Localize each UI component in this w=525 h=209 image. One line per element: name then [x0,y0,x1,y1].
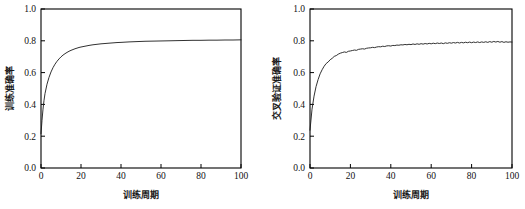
svg-text:0: 0 [308,171,313,181]
svg-text:100: 100 [505,171,520,181]
x-axis-title-training-epoch: 训练周期 [41,188,241,201]
svg-text:0.8: 0.8 [293,36,305,46]
svg-text:40: 40 [116,171,126,181]
svg-text:20: 20 [346,171,356,181]
svg-text:0.0: 0.0 [293,163,305,173]
cross-validation-accuracy-plot: 0204060801000.00.20.40.60.81.0 [262,0,525,209]
y-axis-title-cross-validation-accuracy: 交叉验证准确率 [270,57,283,120]
svg-text:0.8: 0.8 [24,36,36,46]
chart-panel-training-accuracy: 0204060801000.00.20.40.60.81.0 训练准确率 训练周… [0,0,262,209]
svg-text:0.4: 0.4 [24,100,36,110]
svg-text:0.2: 0.2 [24,132,36,142]
training-accuracy-plot: 0204060801000.00.20.40.60.81.0 [0,0,262,209]
svg-text:80: 80 [467,171,477,181]
svg-text:60: 60 [426,171,436,181]
svg-text:0.4: 0.4 [293,100,305,110]
x-axis-title-training-epoch: 训练周期 [310,188,512,201]
svg-text:0: 0 [39,171,44,181]
figure-two-accuracy-charts: 0204060801000.00.20.40.60.81.0 训练准确率 训练周… [0,0,525,209]
svg-text:1.0: 1.0 [293,4,305,14]
svg-text:80: 80 [196,171,206,181]
y-axis-title-training-accuracy: 训练准确率 [3,66,16,111]
svg-text:40: 40 [386,171,396,181]
svg-text:20: 20 [76,171,86,181]
svg-text:0.6: 0.6 [293,68,305,78]
svg-text:0.2: 0.2 [293,132,305,142]
svg-text:0.0: 0.0 [24,163,36,173]
chart-panel-cross-validation-accuracy: 0204060801000.00.20.40.60.81.0 交叉验证准确率 训… [262,0,525,209]
svg-text:0.6: 0.6 [24,68,36,78]
svg-text:60: 60 [156,171,166,181]
svg-text:1.0: 1.0 [24,4,36,14]
svg-text:100: 100 [234,171,249,181]
